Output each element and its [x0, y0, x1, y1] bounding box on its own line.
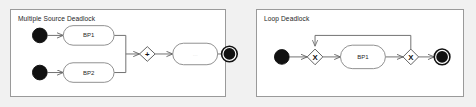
task-bp1[interactable]: BP1 — [63, 26, 114, 46]
task-bp1-label: BP1 — [357, 54, 369, 60]
task-bp1-label: BP1 — [83, 32, 95, 38]
gateway-xor-left[interactable]: X — [307, 49, 323, 65]
panel-loop-deadlock: Loop Deadlock — [256, 9, 464, 97]
start-event-icon — [274, 50, 289, 65]
task-bp2-label: BP2 — [83, 70, 95, 76]
diagram-canvas: Multiple Source Deadlock — [0, 0, 476, 107]
end-event-core — [436, 51, 448, 63]
end-event-1 — [222, 46, 238, 62]
start-event-1-icon — [32, 28, 47, 43]
gateway-parallel-join-label: + — [145, 50, 150, 59]
flow-bp1-to-rail — [114, 35, 126, 54]
task-bp1[interactable]: BP1 — [340, 45, 385, 68]
task-unnamed[interactable]: ... — [173, 43, 218, 65]
gateway-xor-right-label: X — [408, 53, 414, 62]
gateway-xor-left-label: X — [312, 53, 318, 62]
flow-bp2-to-rail — [114, 54, 126, 73]
start-event-2-icon — [32, 65, 47, 80]
end-event-1-core — [224, 48, 236, 60]
diagram-multiple-source-deadlock: BP1 BP2 + ... — [11, 10, 225, 96]
panel-multiple-source-deadlock: Multiple Source Deadlock — [10, 9, 226, 97]
gateway-xor-right[interactable]: X — [403, 49, 419, 65]
task-bp2[interactable]: BP2 — [63, 63, 114, 83]
diagram-loop-deadlock: X BP1 X — [257, 10, 463, 96]
end-event — [434, 49, 450, 65]
gateway-parallel-join[interactable]: + — [140, 47, 156, 62]
task-unnamed-label: ... — [193, 51, 198, 57]
